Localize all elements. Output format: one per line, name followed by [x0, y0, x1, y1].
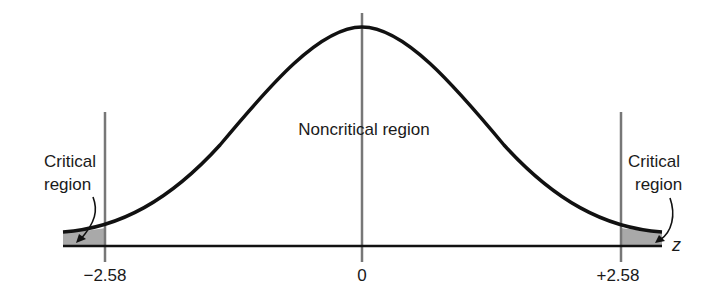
tick-label-neg: −2.58 — [83, 266, 126, 285]
normal-curve-diagram: Critical region Noncritical region Criti… — [0, 0, 717, 308]
left-critical-label-1: Critical — [44, 152, 96, 171]
right-critical-label-1: Critical — [628, 152, 680, 171]
right-critical-label-2: region — [635, 175, 682, 194]
left-critical-label-2: region — [44, 175, 91, 194]
noncritical-label: Noncritical region — [298, 120, 429, 139]
tick-label-zero: 0 — [357, 266, 366, 285]
tick-label-pos: +2.58 — [596, 266, 639, 285]
z-axis-label: z — [671, 235, 681, 255]
